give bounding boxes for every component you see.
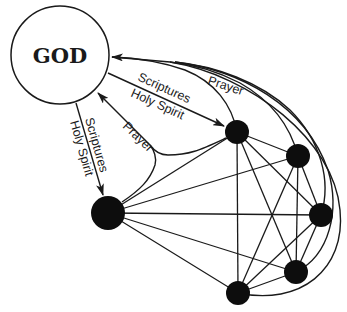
edge-c-f <box>108 213 321 215</box>
god-label: GOD <box>33 43 87 68</box>
member-node-b <box>286 144 310 168</box>
edge-a-e <box>237 132 238 293</box>
edge-e-f <box>108 213 238 293</box>
edge-a-f <box>108 132 237 213</box>
member-node-e <box>226 281 250 305</box>
edge-a-c <box>237 132 321 215</box>
edge-b-d <box>296 156 298 272</box>
label-top-prayer: Prayer <box>206 74 245 99</box>
edge-b-f <box>108 156 298 213</box>
edge-c-e <box>238 215 321 293</box>
label-mid-prayer: Prayer <box>120 119 156 155</box>
god-node: GOD <box>11 6 109 104</box>
member-node-a <box>225 120 249 144</box>
member-node-c <box>309 203 333 227</box>
edge-d-f <box>108 213 296 272</box>
member-node-f <box>91 196 125 230</box>
member-node-d <box>284 260 308 284</box>
god-network-diagram: GOD Scriptures Holy Spirit Praye <box>0 0 347 312</box>
